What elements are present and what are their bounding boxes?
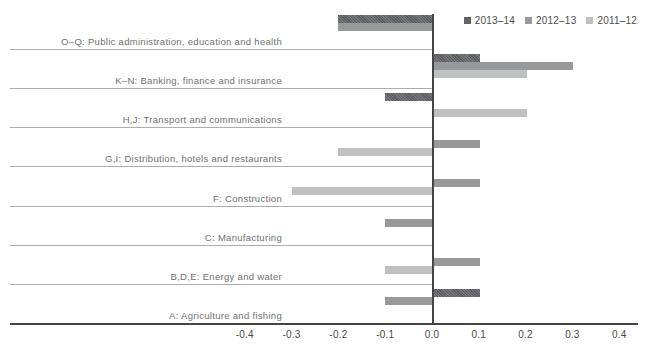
bar — [385, 266, 432, 274]
bar — [433, 62, 573, 70]
x-tick-label: -0.1 — [376, 329, 394, 340]
bar — [385, 219, 432, 227]
row-separator — [10, 245, 432, 246]
row-separator — [10, 49, 432, 50]
row-separator — [10, 127, 432, 128]
row-separator — [10, 206, 432, 207]
bar — [385, 297, 432, 305]
x-tick-label: 0.0 — [425, 329, 440, 340]
row-separator — [10, 88, 432, 89]
x-tick-label: 0.3 — [565, 329, 580, 340]
x-tick-label: 0.1 — [472, 329, 487, 340]
legend-item-2013-14: 2013–14 — [464, 15, 515, 26]
x-tick-label: 0.4 — [612, 329, 627, 340]
legend-swatch-2012-13-icon — [525, 17, 532, 24]
bar — [338, 148, 432, 156]
category-label: F: Construction — [10, 194, 282, 204]
x-axis-baseline — [10, 323, 638, 325]
x-tick-label: -0.4 — [236, 329, 254, 340]
bar-chart: O–Q: Public administration, education an… — [0, 0, 648, 362]
bar — [338, 23, 432, 31]
bar — [433, 258, 480, 266]
x-tick-label: -0.3 — [283, 329, 301, 340]
zero-axis-line — [432, 14, 434, 325]
bar — [433, 70, 527, 78]
category-label: H,J: Transport and communications — [10, 115, 282, 125]
plot-area: O–Q: Public administration, education an… — [0, 0, 648, 362]
bar — [292, 187, 432, 195]
category-label: K–N: Banking, finance and insurance — [10, 76, 282, 86]
row-separator — [10, 284, 432, 285]
legend-item-2011-12: 2011–12 — [586, 15, 637, 26]
bar — [385, 93, 432, 101]
legend: 2013–14 2012–13 2011–12 — [464, 15, 637, 26]
bar — [433, 179, 480, 187]
legend-swatch-2011-12-icon — [586, 17, 593, 24]
x-tick-label: -0.2 — [329, 329, 347, 340]
legend-label-2012-13: 2012–13 — [536, 15, 576, 26]
category-label: G,I: Distribution, hotels and restaurant… — [10, 154, 282, 164]
legend-item-2012-13: 2012–13 — [525, 15, 576, 26]
category-label: B,D,E: Energy and water — [10, 272, 282, 282]
legend-swatch-2013-14-icon — [464, 17, 471, 24]
category-label: O–Q: Public administration, education an… — [10, 37, 282, 47]
bar — [433, 54, 480, 62]
x-tick-label: 0.2 — [518, 329, 533, 340]
bar — [433, 289, 480, 297]
category-label: A: Agriculture and fishing — [10, 311, 282, 321]
bar — [433, 140, 480, 148]
bar — [433, 109, 527, 117]
legend-label-2011-12: 2011–12 — [597, 15, 637, 26]
category-label: C: Manufacturing — [10, 233, 282, 243]
legend-label-2013-14: 2013–14 — [475, 15, 515, 26]
row-separator — [10, 166, 432, 167]
bar — [338, 15, 432, 23]
